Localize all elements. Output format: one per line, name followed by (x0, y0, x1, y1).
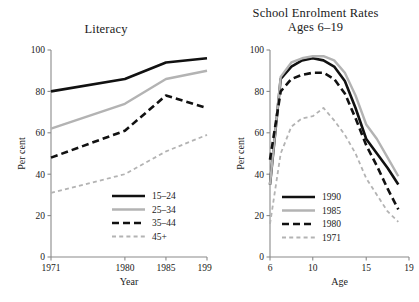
y-tick-label: 20 (36, 211, 46, 221)
figure-root: Literacy 0204060801001971198019851990Yea… (0, 0, 419, 302)
x-axis-label: Year (120, 276, 139, 287)
x-tick-label: 10 (308, 263, 318, 273)
y-tick-label: 40 (255, 170, 265, 180)
legend-label: 1980 (322, 219, 341, 229)
y-tick-label: 100 (250, 45, 265, 55)
y-tick-label: 0 (259, 252, 264, 262)
y-tick-label: 80 (255, 87, 265, 97)
y-tick-label: 40 (36, 170, 46, 180)
x-tick-label: 6 (268, 263, 273, 273)
y-tick-label: 60 (36, 128, 46, 138)
x-tick-label: 1971 (42, 263, 61, 273)
y-tick-label: 20 (255, 211, 265, 221)
y-tick-label: 0 (40, 252, 45, 262)
legend-label: 1985 (322, 206, 341, 216)
series-line (51, 71, 207, 129)
legend-label: 15–24 (152, 191, 176, 201)
x-tick-label: 1980 (115, 263, 134, 273)
legend-label: 45+ (152, 232, 167, 242)
plot-area-enrolment: 0204060801006101519AgePer cent1990198519… (212, 0, 419, 302)
legend-label: 1990 (322, 192, 341, 202)
x-tick-label: 19 (404, 263, 414, 273)
legend-label: 1971 (322, 233, 341, 243)
y-axis-label: Per cent (16, 137, 27, 170)
y-tick-label: 60 (255, 128, 265, 138)
chart-panel-enrolment: School Enrolment RatesAges 6–19 02040608… (212, 0, 419, 302)
legend-label: 25–34 (152, 205, 176, 215)
legend-label: 35–44 (152, 218, 176, 228)
chart-panel-literacy: Literacy 0204060801001971198019851990Yea… (0, 0, 212, 302)
x-axis-label: Age (331, 276, 348, 287)
x-tick-label: 1990 (198, 263, 213, 273)
series-line (51, 96, 207, 158)
y-tick-label: 100 (31, 45, 46, 55)
y-tick-label: 80 (36, 87, 46, 97)
plot-area-literacy: 0204060801001971198019851990YearPer cent… (0, 0, 212, 302)
x-tick-label: 15 (361, 263, 371, 273)
series-line (270, 58, 398, 184)
x-tick-label: 1985 (156, 263, 175, 273)
y-axis-label: Per cent (235, 137, 246, 170)
series-line (51, 135, 207, 193)
